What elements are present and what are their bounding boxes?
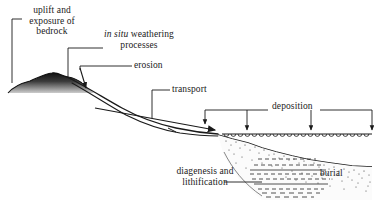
deposition-bracket bbox=[205, 110, 372, 130]
bedrock-mound bbox=[8, 73, 94, 93]
label-weathering-line2: processes bbox=[85, 40, 193, 51]
label-weathering-line1: in situ weathering bbox=[85, 29, 193, 40]
label-burial: burial bbox=[320, 168, 343, 179]
label-erosion: erosion bbox=[134, 60, 163, 71]
label-transport: transport bbox=[172, 84, 207, 95]
label-weathering-emphasis: in situ bbox=[104, 29, 128, 39]
label-in-situ-weathering-processes: in situ weathering processes bbox=[85, 29, 193, 50]
label-weathering-rest: weathering bbox=[128, 29, 174, 39]
label-uplift-exposure-bedrock: uplift and exposure of bedrock bbox=[14, 5, 90, 37]
sedimentary-cycle-diagram: uplift and exposure of bedrock in situ w… bbox=[0, 0, 380, 206]
label-diagenesis-line2: lithification bbox=[152, 177, 258, 188]
label-deposition: deposition bbox=[272, 101, 313, 112]
label-diagenesis-line1: diagenesis and bbox=[152, 166, 258, 177]
water-surface bbox=[222, 134, 372, 136]
weathering-leader bbox=[68, 48, 103, 77]
transport-leader bbox=[152, 90, 170, 118]
label-uplift-line1: uplift and bbox=[14, 5, 90, 16]
label-uplift-line2: exposure of bbox=[14, 16, 90, 27]
erosion-leader bbox=[80, 66, 132, 88]
label-diagenesis-lithification: diagenesis and lithification bbox=[152, 166, 258, 187]
label-uplift-line3: bedrock bbox=[14, 26, 90, 37]
